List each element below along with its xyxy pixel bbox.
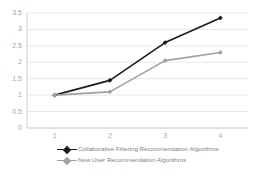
legend-item-2[interactable]: New User Recommendation Algorithms bbox=[57, 155, 257, 166]
chart-legend: Collaborative Filtering Recommendation A… bbox=[57, 144, 257, 166]
y-tick-label: 0 bbox=[0, 124, 22, 131]
legend-label: New User Recommendation Algorithms bbox=[77, 157, 186, 163]
data-point-marker bbox=[218, 16, 223, 21]
x-tick-label: 3 bbox=[155, 132, 175, 139]
y-tick-label: 1 bbox=[0, 91, 22, 98]
legend-diamond-icon bbox=[63, 156, 71, 164]
gridlines bbox=[27, 13, 248, 128]
legend-item-1[interactable]: Collaborative Filtering Recommendation A… bbox=[57, 144, 257, 155]
y-tick-label: 2.5 bbox=[0, 42, 22, 49]
axis-lines bbox=[27, 13, 248, 128]
legend-swatch-icon bbox=[57, 145, 77, 154]
y-tick-label: 2 bbox=[0, 58, 22, 65]
data-point-marker bbox=[218, 50, 223, 55]
line-chart: 00.511.522.533.5 1234 Collaborative Filt… bbox=[0, 0, 257, 177]
y-tick-label: 0.5 bbox=[0, 108, 22, 115]
y-tick-label: 3.5 bbox=[0, 9, 22, 16]
x-tick-label: 4 bbox=[210, 132, 230, 139]
data-point-marker bbox=[52, 93, 57, 98]
x-tick-label: 1 bbox=[45, 132, 65, 139]
legend-diamond-icon bbox=[63, 145, 71, 153]
x-tick-label: 2 bbox=[100, 132, 120, 139]
legend-label: Collaborative Filtering Recommendation A… bbox=[77, 146, 219, 152]
legend-swatch-icon bbox=[57, 156, 77, 165]
y-tick-label: 1.5 bbox=[0, 75, 22, 82]
y-tick-label: 3 bbox=[0, 25, 22, 32]
